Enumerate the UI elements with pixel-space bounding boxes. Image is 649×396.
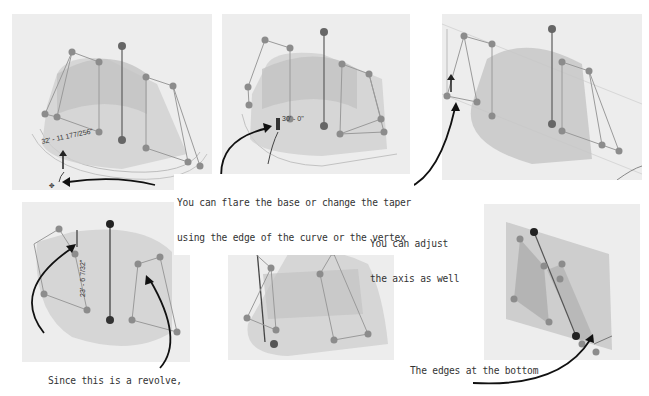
viewport-panel-flare-base[interactable]: 32' - 11 177/256" ✥ (12, 14, 212, 190)
viewport-panel-height[interactable]: 30' - 0" (442, 14, 642, 180)
callout-text: The edges at the bottom (410, 365, 566, 377)
dimension-label: 30' - 0" (282, 115, 304, 122)
callout-text: You can adjust (370, 238, 459, 250)
callout-adjust-axis: You can adjust the axis as well (370, 215, 459, 296)
cursor-move-icon[interactable]: ✥ (49, 180, 55, 190)
callout-revolve-grip: The edges at the bottom have a grip that… (410, 342, 566, 396)
viewport-panel-revolve-angle[interactable] (484, 204, 640, 360)
viewport-panel-taper-vertex[interactable]: 30' - 0" (222, 14, 410, 176)
callout-text: the axis as well (370, 273, 459, 285)
viewport-panel-revolve-sides[interactable]: 23' - 6 7/32" (22, 202, 190, 362)
dimension-label: 23' - 6 7/32" (79, 259, 86, 297)
callout-revolve-sides: Since this is a revolve, edits affect bo… (48, 352, 182, 396)
callout-text: You can flare the base or change the tap… (177, 197, 411, 209)
callout-text: Since this is a revolve, (48, 375, 182, 387)
